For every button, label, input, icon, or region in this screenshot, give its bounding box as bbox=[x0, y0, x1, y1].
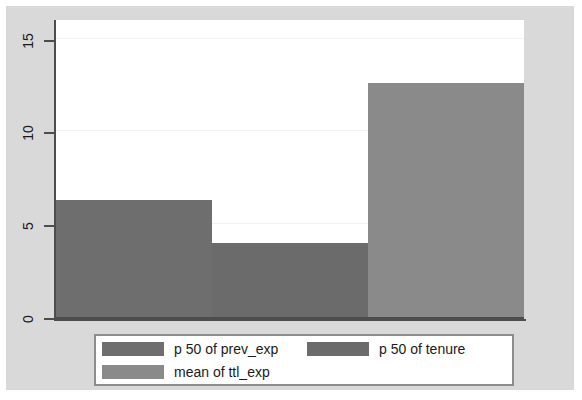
y-tick-mark bbox=[44, 225, 54, 227]
y-tick-label-text: 5 bbox=[20, 222, 36, 230]
legend-label-ttl-exp: mean of ttl_exp bbox=[174, 364, 270, 380]
y-tick-label: 10 bbox=[18, 123, 38, 143]
plot-area bbox=[54, 20, 524, 319]
bar-1 bbox=[56, 200, 212, 317]
gridline bbox=[56, 38, 524, 39]
legend-item: p 50 of tenure bbox=[307, 338, 502, 359]
plot-inner bbox=[56, 20, 524, 317]
chart-legend: p 50 of prev_exp p 50 of tenure mean of … bbox=[94, 334, 514, 386]
y-tick-mark bbox=[44, 318, 54, 320]
bar-2 bbox=[212, 243, 368, 317]
legend-item: p 50 of prev_exp bbox=[102, 338, 307, 359]
y-tick-label: 5 bbox=[18, 216, 38, 236]
bar-3 bbox=[368, 83, 524, 317]
legend-item: mean of ttl_exp bbox=[102, 361, 307, 382]
bar-chart-figure: 151050 p 50 of prev_exp p 50 of tenure m… bbox=[0, 0, 582, 400]
y-tick-mark bbox=[44, 132, 54, 134]
legend-label-tenure: p 50 of tenure bbox=[379, 341, 465, 357]
y-tick-label: 15 bbox=[18, 31, 38, 51]
y-tick-label: 0 bbox=[18, 309, 38, 329]
y-axis-line bbox=[54, 20, 56, 321]
figure-canvas: 151050 p 50 of prev_exp p 50 of tenure m… bbox=[6, 6, 574, 390]
y-tick-mark bbox=[44, 40, 54, 42]
legend-swatch-prev-exp bbox=[102, 342, 164, 356]
legend-label-prev-exp: p 50 of prev_exp bbox=[174, 341, 278, 357]
y-tick-label-text: 0 bbox=[20, 315, 36, 323]
legend-swatch-tenure bbox=[307, 342, 369, 356]
x-axis-line bbox=[54, 319, 526, 321]
y-tick-label-text: 10 bbox=[20, 126, 36, 142]
legend-swatch-ttl-exp bbox=[102, 365, 164, 379]
y-tick-label-text: 15 bbox=[20, 33, 36, 49]
